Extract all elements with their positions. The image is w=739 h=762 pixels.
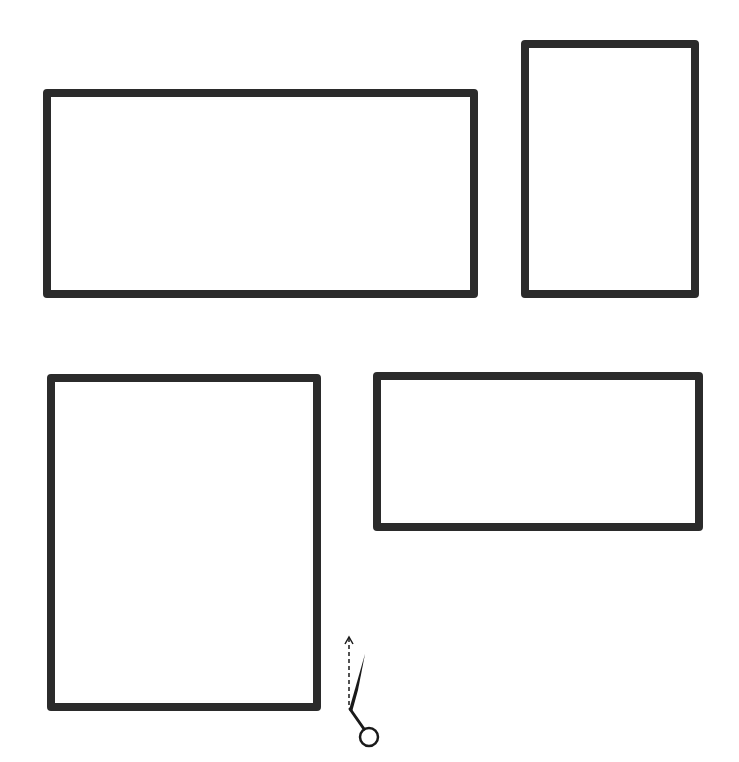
- frame-4-landscape: [373, 372, 703, 531]
- scissors-icon: [330, 630, 390, 755]
- frame-3-portrait: [47, 374, 321, 711]
- frame-2-portrait: [521, 40, 699, 298]
- frame-1-landscape: [43, 89, 478, 298]
